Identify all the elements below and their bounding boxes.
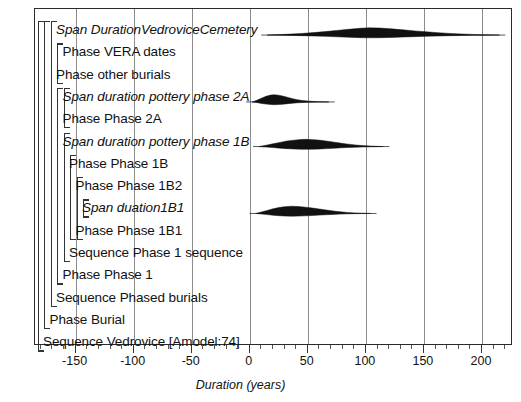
oxcal-span-duration-figure: Span DurationVedroviceCemeteryPhase VERA… [0, 0, 521, 402]
minor-tick [353, 345, 354, 349]
minor-tick [272, 345, 273, 349]
minor-tick [318, 345, 319, 349]
minor-tick [121, 345, 122, 349]
major-tick-100 [365, 345, 366, 353]
x-tick-label: 100 [354, 354, 375, 368]
minor-tick [168, 345, 169, 349]
x-tick-label: -150 [62, 354, 87, 368]
minor-tick [144, 345, 145, 349]
minor-tick [179, 345, 180, 349]
major-tick--100 [133, 345, 134, 353]
distribution-0 [267, 28, 499, 38]
minor-tick [435, 345, 436, 349]
minor-tick [295, 345, 296, 349]
major-tick-50 [307, 345, 308, 353]
minor-tick [214, 345, 215, 349]
minor-tick [284, 345, 285, 349]
x-tick-label: -100 [120, 354, 145, 368]
minor-tick [342, 345, 343, 349]
minor-tick [63, 345, 64, 349]
minor-tick [400, 345, 401, 349]
minor-tick [388, 345, 389, 349]
plot-frame: Span DurationVedroviceCemeteryPhase VERA… [34, 8, 512, 345]
major-tick-0 [249, 345, 250, 353]
minor-tick [86, 345, 87, 349]
major-tick-200 [481, 345, 482, 353]
minor-tick [377, 345, 378, 349]
distribution-2 [259, 139, 383, 149]
minor-tick [156, 345, 157, 349]
distribution-curves [35, 9, 511, 344]
x-tick-label: -50 [182, 354, 200, 368]
minor-tick [504, 345, 505, 349]
x-tick-label: 50 [300, 354, 314, 368]
minor-tick [493, 345, 494, 349]
major-tick-150 [423, 345, 424, 353]
x-tick-label: 0 [245, 354, 252, 368]
x-axis: -150-100-50050100150200 [34, 345, 512, 359]
x-axis-title-text: Duration (years) [196, 378, 286, 392]
distribution-3 [256, 206, 371, 216]
minor-tick [260, 345, 261, 349]
minor-tick [226, 345, 227, 349]
x-tick-label: 150 [412, 354, 433, 368]
minor-tick [110, 345, 111, 349]
x-tick-label: 200 [471, 354, 492, 368]
minor-tick [202, 345, 203, 349]
minor-tick [411, 345, 412, 349]
minor-tick [98, 345, 99, 349]
minor-tick [330, 345, 331, 349]
minor-tick [458, 345, 459, 349]
minor-tick [40, 345, 41, 349]
x-axis-title: Duration (years) [0, 378, 521, 392]
major-tick--150 [75, 345, 76, 353]
minor-tick [469, 345, 470, 349]
distribution-1 [252, 95, 329, 105]
minor-tick [446, 345, 447, 349]
minor-tick [237, 345, 238, 349]
minor-tick [51, 345, 52, 349]
major-tick--50 [191, 345, 192, 353]
